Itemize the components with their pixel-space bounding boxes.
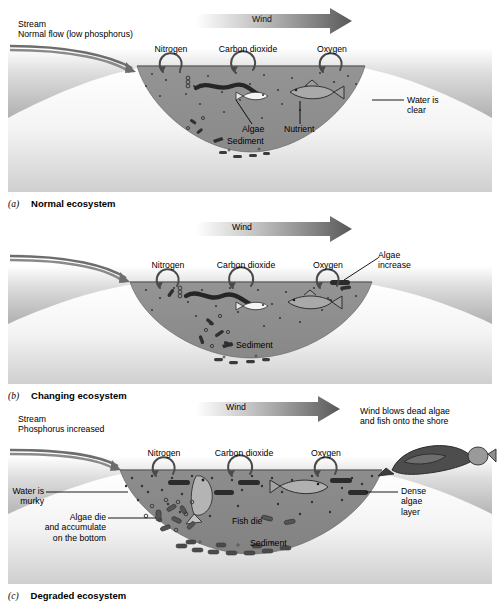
stream-phosphorus-label-c: Phosphorus increased xyxy=(18,424,104,434)
label-water-murky-c: Water is murky xyxy=(0,486,44,507)
gas-label-oxygen-a: Oxygen xyxy=(304,44,360,54)
stream-label-a: Stream xyxy=(18,19,46,29)
gas-label-nitrogen-a: Nitrogen xyxy=(141,44,201,54)
label-algae-die-c: Algae die and accumulate on the bottom xyxy=(2,512,106,543)
label-algae-a: Algae xyxy=(242,124,264,134)
label-nutrient-a: Nutrient xyxy=(284,124,314,134)
gas-label-carbon-dioxide-b: Carbon dioxide xyxy=(202,260,290,270)
algae-increase-mat-b xyxy=(330,280,350,285)
wind-label-a: Wind xyxy=(232,14,292,24)
gas-label-carbon-dioxide-c: Carbon dioxide xyxy=(200,448,288,458)
gas-label-carbon-dioxide-a: Carbon dioxide xyxy=(204,44,292,54)
label-water-clear-a: Water is clear xyxy=(407,95,439,116)
label-sediment-a: Sediment xyxy=(227,136,264,146)
caption-letter-a: (a) xyxy=(8,199,19,209)
caption-text-c: Degraded ecosystem xyxy=(31,590,127,601)
caption-letter-c: (c) xyxy=(8,591,19,601)
caption-a: (a)Normal ecosystem xyxy=(8,198,116,209)
label-dense-algae-layer-c: Dense algae layer xyxy=(401,486,426,517)
wind-arrow-c xyxy=(196,396,340,422)
panel-changing-ecosystem: Wind Nitrogen Carbon dioxide Oxygen Alga… xyxy=(0,212,500,388)
label-fish-die-c: Fish die xyxy=(232,516,262,526)
panel-normal-ecosystem: Stream Normal flow (low phosphorus) Wind… xyxy=(0,0,500,196)
caption-c: (c)Degraded ecosystem xyxy=(8,590,126,601)
caption-text-a: Normal ecosystem xyxy=(31,198,115,209)
eutrophication-figure: Stream Normal flow (low phosphorus) Wind… xyxy=(0,0,500,609)
label-wind-blows-algae-c: Wind blows dead algae and fish onto the … xyxy=(360,406,450,427)
panel-degraded-ecosystem: Stream Phosphorus increased Wind Wind bl… xyxy=(0,394,500,588)
stream-flow-label-a: Normal flow (low phosphorus) xyxy=(18,29,133,39)
wind-label-c: Wind xyxy=(226,402,246,412)
gas-label-oxygen-c: Oxygen xyxy=(298,448,354,458)
stream-label-c: Stream xyxy=(18,414,46,424)
wind-arrow-b xyxy=(196,216,352,242)
label-sediment-b: Sediment xyxy=(236,340,273,350)
gas-label-nitrogen-b: Nitrogen xyxy=(138,260,198,270)
label-sediment-c: Sediment xyxy=(250,538,287,548)
label-algae-increase-b: Algae increase xyxy=(378,250,411,271)
scene-b xyxy=(0,212,500,388)
wind-label-b: Wind xyxy=(232,222,252,232)
gas-label-nitrogen-c: Nitrogen xyxy=(134,448,194,458)
gas-label-oxygen-b: Oxygen xyxy=(300,260,356,270)
